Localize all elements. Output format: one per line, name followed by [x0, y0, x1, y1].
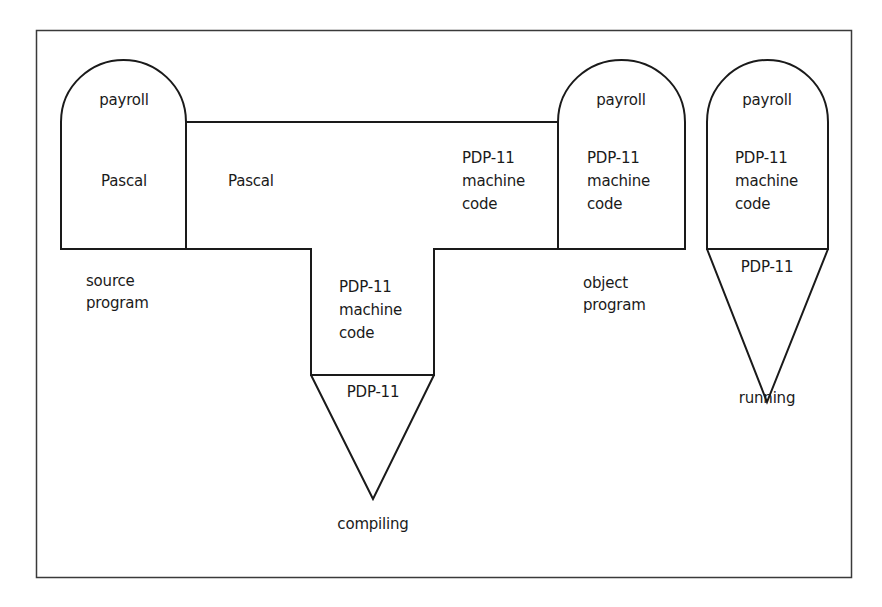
running-caption: running — [739, 387, 795, 409]
compiler-impl-line-3: code — [339, 322, 374, 344]
running-program-line-2: machine — [735, 170, 798, 192]
object-program-line-3: code — [587, 193, 622, 215]
source-program-caption-1: source — [86, 270, 135, 292]
compiler-target-line-2: machine — [462, 170, 525, 192]
running-program-line-3: code — [735, 193, 770, 215]
source-program-language: Pascal — [101, 170, 147, 192]
compiler-source-language: Pascal — [228, 170, 274, 192]
object-program-caption-2: program — [583, 294, 646, 316]
object-program-caption-1: object — [583, 272, 628, 294]
compiling-caption: compiling — [337, 513, 408, 535]
compiling-machine-label: PDP-11 — [347, 381, 400, 403]
source-program-title: payroll — [99, 89, 149, 111]
running-machine-label: PDP-11 — [741, 256, 794, 278]
running-program-line-1: PDP-11 — [735, 147, 788, 169]
compiler-target-line-1: PDP-11 — [462, 147, 515, 169]
compiler-impl-line-1: PDP-11 — [339, 276, 392, 298]
source-program-caption-2: program — [86, 292, 149, 314]
object-program-line-2: machine — [587, 170, 650, 192]
running-program-title: payroll — [742, 89, 792, 111]
object-program-title: payroll — [596, 89, 646, 111]
compiler-target-line-3: code — [462, 193, 497, 215]
compiler-impl-line-2: machine — [339, 299, 402, 321]
object-program-line-1: PDP-11 — [587, 147, 640, 169]
